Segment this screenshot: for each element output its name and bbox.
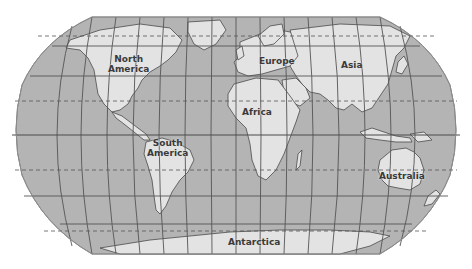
label-south-america-line2: America [147, 148, 188, 158]
world-map: North America South America Europe Asia … [0, 0, 472, 269]
label-south-america-line1: South [147, 138, 188, 148]
label-antarctica: Antarctica [228, 237, 280, 247]
label-africa: Africa [242, 107, 272, 117]
label-north-america-line1: North [108, 54, 149, 64]
label-north-america: North America [108, 54, 149, 74]
label-south-america: South America [147, 138, 188, 158]
label-north-america-line2: America [108, 64, 149, 74]
map-canvas [0, 0, 472, 269]
label-australia: Australia [379, 171, 425, 181]
label-asia: Asia [341, 60, 362, 70]
label-europe: Europe [259, 56, 295, 66]
